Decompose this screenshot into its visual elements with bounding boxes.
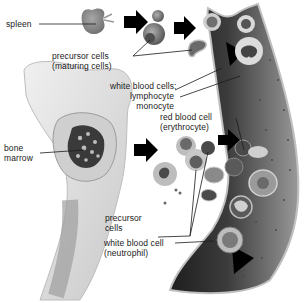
spleen-illustration	[82, 8, 114, 34]
precursor-cells-lower	[153, 136, 224, 205]
label-white-blood-cells: white blood cells: lymphocyte monocyte	[114, 81, 174, 111]
label-bone-marrow: bone marrow	[4, 143, 33, 163]
label-red-blood-cell: red blood cell (erythrocyte)	[160, 112, 212, 132]
label-precursor-cells: precursor cells	[105, 213, 142, 233]
label-neutrophil: white blood cell (neutrophil)	[104, 238, 164, 258]
label-precursor-maturing: precursor cells (maturing cells)	[52, 51, 112, 71]
label-spleen: spleen	[6, 19, 32, 29]
blood-formation-diagram: spleen precursor cells (maturing cells) …	[0, 0, 304, 303]
